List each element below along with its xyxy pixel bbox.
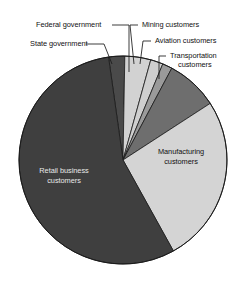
label-manufacturing-customers-line1: Manufacturing — [145, 147, 217, 157]
pie-chart-figure: State government Federal government Mini… — [0, 0, 243, 289]
label-state-government: State government — [30, 39, 88, 48]
label-retail-business-customers-line2: customers — [23, 176, 105, 186]
label-retail-business-customers-line1: Retail business — [23, 166, 105, 176]
label-mining-customers: Mining customers — [142, 20, 199, 29]
label-transportation-customers-line2: customers — [178, 60, 212, 69]
label-aviation-customers: Aviation customers — [155, 36, 216, 45]
label-manufacturing-customers-line2: customers — [145, 157, 217, 167]
label-federal-government: Federal government — [36, 20, 101, 29]
label-transportation-customers-line1: Transportation — [170, 51, 217, 60]
